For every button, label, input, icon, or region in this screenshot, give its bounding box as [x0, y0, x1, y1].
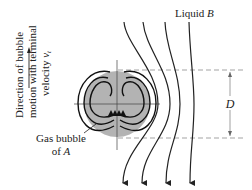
- bubble-flow-diagram: D Liquid B Direction of bubble motion wi…: [0, 0, 252, 190]
- direction-label: Direction of bubble motion with terminal…: [13, 25, 53, 118]
- gas-bubble-label-line2: of A: [52, 145, 71, 157]
- dimension-label: D: [225, 97, 235, 111]
- gas-bubble-label-line1: Gas bubble: [36, 132, 86, 144]
- svg-text:motion with terminal: motion with terminal: [26, 25, 38, 118]
- svg-text:Direction of bubble: Direction of bubble: [13, 32, 25, 118]
- svg-text:velocity vt: velocity vt: [39, 50, 53, 96]
- liquid-b-label: Liquid B: [175, 7, 214, 19]
